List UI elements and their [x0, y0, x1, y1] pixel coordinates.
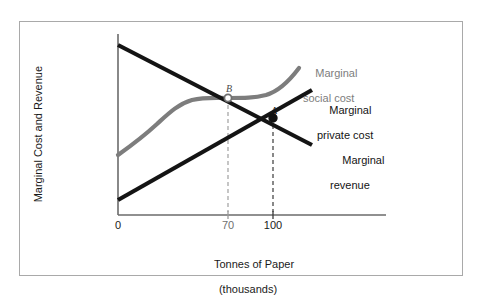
- x-tick-label-100: 100: [253, 219, 293, 231]
- series-label-mr-line2: revenue: [330, 179, 384, 191]
- series-label-mpc-line2: private cost: [317, 129, 373, 141]
- x-axis-title-line1: Tonnes of Paper: [214, 258, 294, 270]
- series-label-msc-line1: Marginal: [315, 67, 357, 79]
- x-axis-title-line2: (thousands): [148, 283, 348, 295]
- data-point-label-a: A: [271, 105, 277, 116]
- series-label-marginal-revenue: Marginal revenue: [330, 142, 384, 216]
- series-label-mr-line1: Marginal: [342, 154, 384, 166]
- y-axis-title: Marginal Cost and Revenue: [32, 44, 44, 224]
- data-point-b-marker: [224, 94, 231, 101]
- x-axis-title: Tonnes of Paper (thousands): [148, 246, 348, 299]
- series-label-mpc-line1: Marginal: [329, 104, 371, 116]
- x-tick-label-70: 70: [208, 219, 248, 231]
- data-point-label-b: B: [226, 83, 232, 94]
- x-tick-label-0: 0: [98, 219, 138, 231]
- series-marginal-private-cost: [118, 90, 312, 200]
